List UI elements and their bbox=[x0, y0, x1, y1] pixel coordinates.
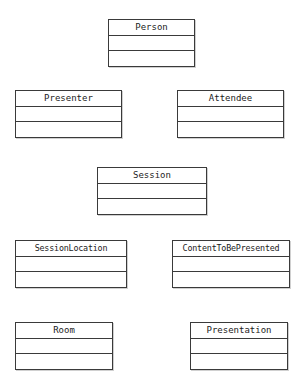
uml-attributes-compartment-presentation bbox=[191, 339, 287, 354]
uml-operations-compartment-attendee bbox=[178, 122, 283, 137]
uml-class-name-presenter: Presenter bbox=[16, 91, 121, 107]
uml-operations-compartment-sessionlocation bbox=[16, 272, 126, 287]
uml-attributes-compartment-person bbox=[109, 36, 194, 51]
uml-class-name-person: Person bbox=[109, 20, 194, 36]
uml-class-name-contenttobepresented: ContentToBePresented bbox=[173, 241, 289, 257]
uml-class-contenttobepresented[interactable]: ContentToBePresented bbox=[172, 240, 290, 288]
uml-class-attendee[interactable]: Attendee bbox=[177, 90, 284, 138]
uml-attributes-compartment-contenttobepresented bbox=[173, 257, 289, 272]
uml-attributes-compartment-room bbox=[16, 339, 112, 354]
uml-attributes-compartment-attendee bbox=[178, 107, 283, 122]
uml-class-presentation[interactable]: Presentation bbox=[190, 322, 288, 370]
uml-attributes-compartment-sessionlocation bbox=[16, 257, 126, 272]
uml-attributes-compartment-session bbox=[98, 184, 206, 199]
uml-operations-compartment-session bbox=[98, 199, 206, 214]
uml-class-name-session: Session bbox=[98, 168, 206, 184]
uml-operations-compartment-person bbox=[109, 51, 194, 66]
uml-class-diagram-canvas: Person Presenter Attendee Session Sessio… bbox=[0, 0, 304, 392]
uml-class-session[interactable]: Session bbox=[97, 167, 207, 215]
uml-class-sessionlocation[interactable]: SessionLocation bbox=[15, 240, 127, 288]
uml-class-presenter[interactable]: Presenter bbox=[15, 90, 122, 138]
uml-class-name-presentation: Presentation bbox=[191, 323, 287, 339]
uml-operations-compartment-presenter bbox=[16, 122, 121, 137]
uml-class-name-sessionlocation: SessionLocation bbox=[16, 241, 126, 257]
uml-class-room[interactable]: Room bbox=[15, 322, 113, 370]
uml-class-person[interactable]: Person bbox=[108, 19, 195, 67]
uml-class-name-room: Room bbox=[16, 323, 112, 339]
uml-attributes-compartment-presenter bbox=[16, 107, 121, 122]
uml-class-name-attendee: Attendee bbox=[178, 91, 283, 107]
uml-operations-compartment-contenttobepresented bbox=[173, 272, 289, 287]
uml-operations-compartment-room bbox=[16, 354, 112, 369]
uml-operations-compartment-presentation bbox=[191, 354, 287, 369]
